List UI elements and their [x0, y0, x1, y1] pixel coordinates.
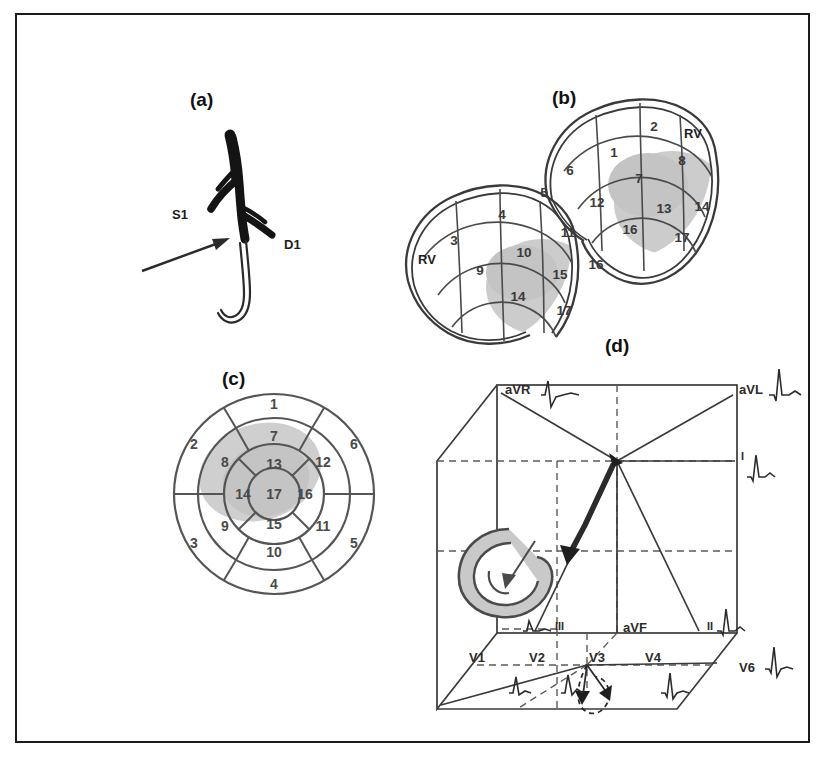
- seg-bot-9: 9: [476, 264, 484, 278]
- terminal-vector-loop: [575, 665, 612, 713]
- label-s1: S1: [172, 208, 188, 221]
- seg-bot-4: 4: [498, 208, 506, 222]
- panel-a-coronary-angiogram: (a) S1 D1: [112, 75, 377, 345]
- seg-top-8: 8: [678, 154, 686, 168]
- bullseye-seg-12: 12: [315, 455, 331, 469]
- lead-label-V1: V1: [469, 651, 485, 664]
- panel-c-bullseye-plot: (c): [142, 360, 407, 625]
- waveform-II: [717, 609, 745, 635]
- rv-label-upper: RV: [684, 127, 702, 140]
- seg-bot-3: 3: [450, 234, 458, 248]
- waveform-V6: [765, 647, 793, 677]
- seg-bot-14: 14: [510, 290, 525, 304]
- lead-label-aVF: aVF: [623, 621, 647, 634]
- label-d1: D1: [284, 238, 301, 251]
- bullseye-seg-14: 14: [235, 487, 251, 501]
- rv-label-lower: RV: [418, 253, 436, 266]
- waveform-I: [747, 455, 775, 481]
- bullseye-seg-8: 8: [221, 455, 229, 469]
- bullseye-seg-4: 4: [270, 577, 278, 591]
- lad-distal-outer-wall: [218, 241, 250, 323]
- bullseye-seg-10: 10: [266, 545, 282, 559]
- panel-d-ecg-lead-cube: (d): [417, 333, 827, 713]
- lead-label-III: III: [555, 621, 564, 632]
- lead-label-I: I: [741, 451, 744, 462]
- seg-top-13: 13: [656, 202, 671, 216]
- bullseye-seg-15: 15: [266, 517, 282, 531]
- bullseye-seg-9: 9: [221, 519, 229, 533]
- vcg-loop-sagittal: [459, 529, 552, 617]
- lead-label-V4: V4: [645, 651, 661, 664]
- seg-bot-17: 17: [556, 304, 571, 318]
- bullseye-seg-3: 3: [190, 536, 198, 550]
- lead-label-aVR: aVR: [505, 383, 530, 396]
- bullseye-seg-1: 1: [270, 397, 278, 411]
- lead-label-II: II: [707, 621, 713, 632]
- seg-top-14: 14: [694, 200, 709, 214]
- upper-right-heart-view: [546, 99, 730, 283]
- panel-b-heart-views: [392, 75, 732, 340]
- waveform-V4: [661, 673, 689, 699]
- initial-vector-arrow: [560, 465, 613, 565]
- lead-label-V2: V2: [529, 651, 545, 664]
- seg-bot-5: 5: [540, 186, 548, 200]
- seg-top-6: 6: [566, 164, 574, 178]
- seg-bot-10: 10: [516, 246, 531, 260]
- bot-seg-divider-a: [456, 201, 462, 333]
- bullseye-seg-16: 16: [297, 487, 313, 501]
- bullseye-seg-6: 6: [350, 437, 358, 451]
- lead-label-V3: V3: [589, 651, 605, 664]
- perfusion-shading-top-core: [608, 153, 688, 217]
- lead-label-V6: V6: [739, 661, 755, 674]
- figure-root: (a) S1 D1: [0, 0, 827, 757]
- lead-label-aVL: aVL: [739, 383, 763, 396]
- panel-a-vessel-drawing: [112, 75, 377, 345]
- lesion-arrow: [142, 238, 230, 271]
- top-seg-divider-a: [596, 115, 602, 251]
- seg-top-1: 1: [610, 146, 618, 160]
- seg-bot-11: 11: [561, 226, 575, 240]
- seg-bot-16: 16: [588, 258, 603, 272]
- panel-b-3d-lv-segments: (b): [392, 75, 732, 340]
- bullseye-seg-2: 2: [190, 437, 198, 451]
- bullseye-seg-13: 13: [266, 457, 282, 471]
- seg-bot-15: 15: [552, 268, 567, 282]
- waveform-aVL: [769, 369, 801, 401]
- bullseye-seg-7: 7: [270, 429, 278, 443]
- bullseye-seg-5: 5: [350, 536, 358, 550]
- bullseye-seg-17: 17: [266, 487, 282, 501]
- lad-distal-inner-wall: [221, 243, 244, 317]
- seg-top-17: 17: [674, 231, 689, 245]
- seg-top-12: 12: [589, 196, 604, 210]
- seg-top-7: 7: [635, 172, 643, 186]
- figure-frame-border: (a) S1 D1: [15, 13, 810, 743]
- bullseye-seg-11: 11: [316, 519, 331, 533]
- seg-top-2: 2: [650, 120, 658, 134]
- seg-top-16: 16: [622, 223, 637, 237]
